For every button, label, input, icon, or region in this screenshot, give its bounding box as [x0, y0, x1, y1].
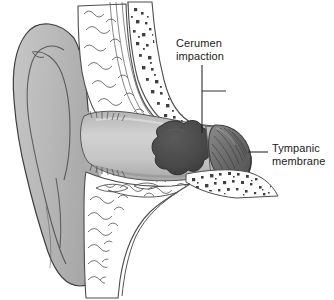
label-tympanic-membrane: Tympanic membrane [272, 142, 325, 167]
label-tympanic-line1: Tympanic [272, 142, 325, 155]
label-cerumen-line2: impaction [176, 50, 224, 63]
label-cerumen-impaction: Cerumen impaction [176, 37, 224, 62]
label-cerumen-line1: Cerumen [176, 37, 224, 50]
ear-anatomy-figure: Cerumen impaction Tympanic membrane [0, 0, 334, 300]
label-tympanic-line2: membrane [272, 155, 325, 168]
